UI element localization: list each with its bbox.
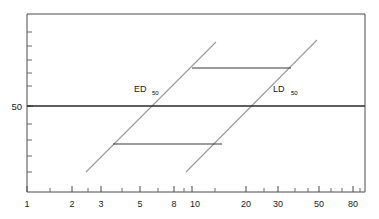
x-tick-label: 3 — [98, 199, 103, 209]
x-tick-label: 1 — [24, 199, 29, 209]
chart-background — [0, 0, 379, 219]
ld50-label: LD — [273, 84, 285, 94]
x-tick-label: 10 — [190, 199, 200, 209]
y-axis-label-50: 50 — [11, 101, 22, 112]
x-tick-label: 50 — [314, 199, 324, 209]
x-tick-label: 8 — [171, 199, 176, 209]
log-probit-dose-response-chart: 50 — [0, 0, 379, 219]
ed50-label: ED — [134, 84, 147, 94]
x-tick-label: 80 — [348, 199, 358, 209]
ld50-label-subscript: 50 — [291, 90, 298, 96]
x-tick-label: 5 — [137, 199, 142, 209]
x-tick-label: 20 — [241, 199, 251, 209]
x-tick-label: 30 — [273, 199, 283, 209]
ed50-label-subscript: 50 — [152, 90, 159, 96]
chart-container: 50 — [0, 0, 379, 219]
x-tick-label: 2 — [69, 199, 74, 209]
